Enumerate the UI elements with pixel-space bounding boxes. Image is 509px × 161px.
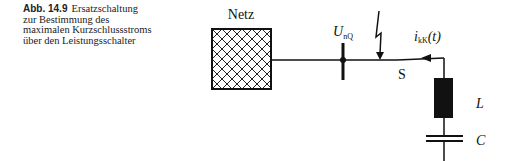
capacitor-label: C	[476, 133, 486, 148]
busbar-voltage-label: UnQ	[333, 24, 353, 41]
inductor-icon	[434, 78, 453, 118]
switch-label: S	[398, 67, 406, 82]
current-label: ikK(t)	[414, 29, 441, 45]
grid-source-icon	[212, 29, 271, 89]
circuit-diagram: Netz UnQ S ikK(t) L C	[0, 0, 509, 161]
fault-lightning-icon	[376, 11, 384, 60]
busbar-icon	[340, 43, 346, 80]
capacitor-icon	[426, 136, 463, 161]
inductor-label: L	[475, 96, 484, 111]
source-label: Netz	[228, 7, 254, 22]
current-arrow-icon	[421, 54, 431, 62]
